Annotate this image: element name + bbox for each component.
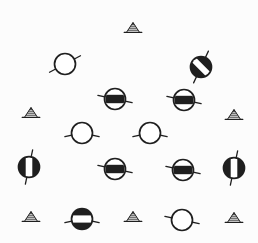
open-circle-symbol xyxy=(42,41,88,87)
banded-circle-symbol xyxy=(160,147,206,193)
striped-triangle-symbol xyxy=(19,208,43,226)
diagram-canvas xyxy=(0,0,258,243)
filled-circle-symbol xyxy=(211,145,257,191)
striped-triangle-symbol xyxy=(19,104,43,122)
open-circle-symbol xyxy=(159,197,205,243)
striped-triangle-symbol xyxy=(222,106,246,124)
filled-circle-symbol xyxy=(59,196,105,242)
banded-circle-symbol xyxy=(92,146,138,192)
striped-triangle-symbol xyxy=(222,209,246,227)
filled-circle-symbol xyxy=(6,144,52,190)
striped-triangle-symbol xyxy=(121,19,145,37)
striped-triangle-symbol xyxy=(121,208,145,226)
